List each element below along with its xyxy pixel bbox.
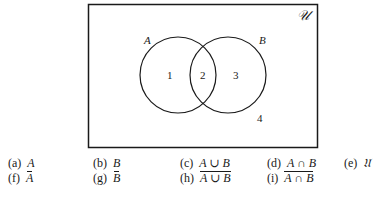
exercise-b: (b)B bbox=[93, 156, 120, 170]
set-a-label: A bbox=[143, 34, 151, 46]
complement-bar: A ∩ B bbox=[284, 171, 313, 185]
complement-bar: A ∪ B bbox=[200, 171, 231, 185]
region-4-label: 4 bbox=[257, 112, 263, 124]
exercise-i: (i)A ∩ B bbox=[267, 171, 313, 185]
complement-bar: A bbox=[26, 171, 33, 185]
set-b-label: B bbox=[259, 34, 266, 46]
complement-bar: B bbox=[113, 171, 120, 185]
exercise-g: (g)B bbox=[93, 171, 120, 185]
exercise-f: (f)A bbox=[8, 171, 33, 185]
venn-diagram: 𝒰 A B 1 2 3 4 bbox=[0, 0, 389, 152]
universe-label: 𝒰 bbox=[297, 8, 314, 23]
exercise-e: (e)𝔘 bbox=[344, 156, 371, 170]
exercise-d: (d)A ∩ B bbox=[267, 156, 316, 170]
exercise-c: (c)A ∪ B bbox=[180, 156, 230, 170]
exercise-a: (a)A bbox=[8, 156, 35, 170]
exercise-h: (h)A ∪ B bbox=[180, 171, 231, 185]
region-3-label: 3 bbox=[233, 69, 239, 81]
region-2-label: 2 bbox=[200, 69, 206, 81]
region-1-label: 1 bbox=[167, 69, 173, 81]
